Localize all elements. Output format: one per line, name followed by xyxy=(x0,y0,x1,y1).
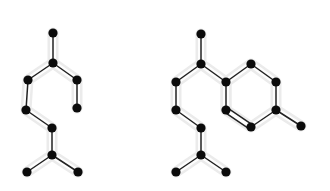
graph-right-node-ring-bottom xyxy=(246,122,255,131)
graph-right-node-mid-left xyxy=(171,105,180,114)
graph-left-node-mid-left xyxy=(21,105,30,114)
graph-right-node-upper-branch xyxy=(196,59,205,68)
graph-left-node-mid-center xyxy=(47,123,56,132)
graph-left-node-lower-branch xyxy=(47,150,56,159)
graph-right-node-ring-top xyxy=(246,59,255,68)
graph-left-node-top-terminal xyxy=(48,28,57,37)
graph-right-node-top-terminal xyxy=(196,29,205,38)
graph-left-node-upper-right xyxy=(72,75,81,84)
graph-left-node-bottom-left-terminal xyxy=(22,167,31,176)
graph-right-node-ring-side-terminal xyxy=(296,121,305,130)
graph-right-node-ring-attach xyxy=(221,77,230,86)
graph-left-node-bottom-right-terminal xyxy=(73,167,82,176)
figure-root: Two molecular graphs with a highlighted … xyxy=(0,0,330,191)
graph-right-node-upper-left xyxy=(171,77,180,86)
graph-right-node-bottom-right-terminal xyxy=(221,167,230,176)
molecular-graph-canvas xyxy=(0,0,330,191)
graph-right-node-lower-branch xyxy=(196,150,205,159)
graph-right-node-mid-center xyxy=(196,123,205,132)
graph-right-node-ring-lower-left xyxy=(221,105,230,114)
graph-right-node-ring-lower-right xyxy=(271,105,280,114)
graph-left-node-upper-left xyxy=(23,75,32,84)
graph-right-node-bottom-left-terminal xyxy=(171,167,180,176)
graph-left-node-upper-branch xyxy=(48,58,57,67)
graph-edge-layer xyxy=(26,33,301,172)
graph-node-layer xyxy=(21,28,305,176)
graph-left-node-right-terminal xyxy=(72,103,81,112)
subgraph-halo-layer xyxy=(26,33,301,172)
graph-right-node-ring-upper-right xyxy=(271,77,280,86)
